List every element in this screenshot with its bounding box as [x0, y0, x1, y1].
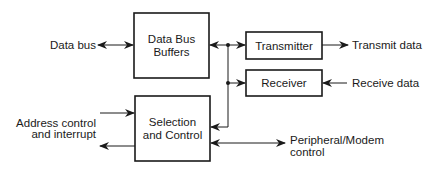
data-bus-buffers-block: Data Bus Buffers — [134, 13, 209, 78]
peripheral-control-label-line2: control — [290, 146, 325, 158]
address-control-label-line2: and interrupt — [31, 128, 96, 140]
transmitter-block: Transmitter — [246, 32, 322, 59]
transmitter-label: Transmitter — [255, 40, 313, 52]
selection-control-label-line2: and Control — [143, 129, 202, 141]
selection-control-block: Selection and Control — [135, 96, 210, 161]
receiver-label: Receiver — [261, 77, 307, 89]
data-bus-label: Data bus — [50, 39, 96, 51]
selection-control-label-line1: Selection — [149, 116, 196, 128]
receive-data-label: Receive data — [352, 77, 420, 89]
receiver-block: Receiver — [246, 70, 322, 96]
internal-bus-to-selection-arrow — [211, 45, 228, 127]
data-bus-buffers-label-line1: Data Bus — [148, 33, 196, 45]
junction-dot-middle — [226, 81, 230, 85]
data-bus-buffers-label-line2: Buffers — [153, 46, 189, 58]
peripheral-control-label-line1: Peripheral/Modem — [290, 134, 384, 146]
block-diagram: Data Bus Buffers Selection and Control T… — [0, 0, 436, 172]
junction-dot-top — [226, 43, 230, 47]
transmit-data-label: Transmit data — [352, 39, 422, 51]
